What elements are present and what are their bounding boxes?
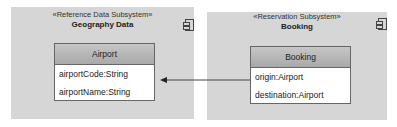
arrowhead-icon — [160, 77, 167, 83]
association-arrow — [0, 0, 397, 127]
